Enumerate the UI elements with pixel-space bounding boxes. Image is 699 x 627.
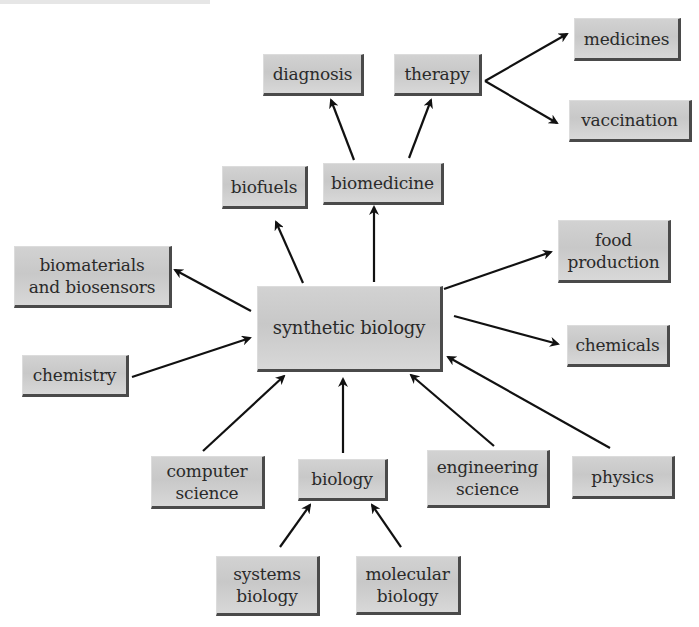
node-food-production: food production bbox=[558, 220, 671, 283]
node-chemicals: chemicals bbox=[567, 325, 670, 367]
arrow-chemistry-to-synthetic-biology bbox=[132, 338, 250, 377]
node-biomedicine: biomedicine bbox=[323, 163, 444, 205]
arrow-therapy-to-vaccination bbox=[485, 81, 557, 123]
node-medicines: medicines bbox=[574, 18, 681, 61]
node-computer-science: computer science bbox=[151, 456, 265, 509]
node-chemistry: chemistry bbox=[22, 355, 129, 397]
arrow-synthetic-biology-to-chemicals bbox=[454, 316, 558, 344]
arrow-systems-biology-to-biology bbox=[280, 505, 310, 547]
node-physics: physics bbox=[572, 456, 675, 499]
diagram-canvas: synthetic biology diagnosis therapy medi… bbox=[0, 0, 699, 627]
node-engineering-science: engineering science bbox=[427, 450, 550, 508]
node-molecular-biology: molecular biology bbox=[356, 556, 461, 615]
arrow-molecular-biology-to-biology bbox=[372, 505, 401, 547]
node-systems-biology: systems biology bbox=[216, 556, 320, 616]
node-synthetic-biology: synthetic biology bbox=[257, 286, 443, 372]
arrow-synthetic-biology-to-biofuels bbox=[276, 222, 303, 283]
arrow-physics-to-synthetic-biology bbox=[448, 357, 610, 448]
node-vaccination: vaccination bbox=[569, 100, 692, 142]
arrow-synthetic-biology-to-biomaterials bbox=[175, 270, 251, 311]
node-biofuels: biofuels bbox=[222, 166, 308, 209]
arrow-therapy-to-medicines bbox=[485, 34, 567, 81]
node-diagnosis: diagnosis bbox=[263, 54, 364, 96]
node-biomaterials-and-biosensors: biomaterials and biosensors bbox=[14, 246, 172, 308]
node-therapy: therapy bbox=[394, 54, 482, 96]
arrow-synthetic-biology-to-food-production bbox=[444, 252, 551, 289]
arrow-biomedicine-to-diagnosis bbox=[331, 100, 354, 160]
arrow-biomedicine-to-therapy bbox=[409, 100, 431, 158]
node-biology: biology bbox=[298, 459, 388, 501]
arrow-engineering-science-to-synthetic-biology bbox=[411, 375, 494, 446]
arrow-computer-science-to-synthetic-biology bbox=[203, 376, 284, 451]
